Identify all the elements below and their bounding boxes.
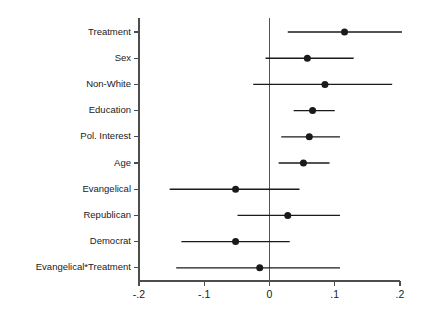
- y-axis-label-sex: Sex: [115, 52, 132, 63]
- y-axis-label-treatment: Treatment: [88, 26, 131, 37]
- y-axis-label-evangelical: Evangelical: [82, 183, 131, 194]
- y-axis-tick-marks: [134, 32, 139, 268]
- y-axis-label-democrat: Democrat: [90, 235, 132, 246]
- point-marker-republican: [284, 212, 291, 219]
- x-axis-tick-label: -.2: [133, 288, 145, 300]
- y-axis-label-republican: Republican: [83, 209, 131, 220]
- point-estimate-markers: [232, 29, 348, 272]
- point-marker-education: [309, 107, 316, 114]
- y-axis-label-age: Age: [114, 157, 131, 168]
- coefficient-plot-canvas: TreatmentSexNon-WhiteEducationPol. Inter…: [0, 0, 427, 315]
- point-marker-evangelical: [232, 186, 239, 193]
- y-axis-label-evangelical-treatment: Evangelical*Treatment: [36, 261, 132, 272]
- x-axis-tick-label: .1: [330, 288, 339, 300]
- point-marker-pol-interest: [306, 133, 313, 140]
- y-axis-label-pol-interest: Pol. Interest: [80, 130, 131, 141]
- point-marker-non-white: [321, 81, 328, 88]
- y-axis-category-labels: TreatmentSexNon-WhiteEducationPol. Inter…: [36, 26, 132, 273]
- x-axis-tick-label: .2: [396, 288, 405, 300]
- point-marker-democrat: [232, 238, 239, 245]
- confidence-interval-whiskers: [170, 32, 402, 268]
- y-axis-label-education: Education: [89, 104, 131, 115]
- point-marker-evangelical-treatment: [256, 264, 263, 271]
- x-axis-tick-label: -.1: [198, 288, 210, 300]
- x-axis-tick-labels: -.2-.10.1.2: [133, 288, 405, 300]
- coefficient-plot-figure: TreatmentSexNon-WhiteEducationPol. Inter…: [0, 0, 427, 315]
- point-marker-treatment: [341, 29, 348, 36]
- point-marker-sex: [304, 55, 311, 62]
- x-axis-tick-label: 0: [267, 288, 273, 300]
- y-axis-label-non-white: Non-White: [86, 78, 131, 89]
- point-marker-age: [300, 160, 307, 167]
- x-axis-tick-marks: [139, 281, 400, 286]
